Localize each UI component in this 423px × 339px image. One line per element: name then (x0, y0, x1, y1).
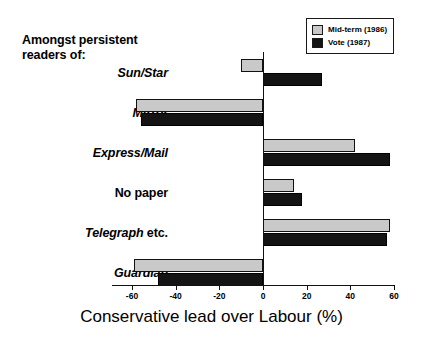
x-tick-label: 60 (389, 291, 398, 301)
bar-vote-mirror (141, 113, 263, 126)
category-label-sun-star: Sun/Star (117, 66, 168, 80)
category-label-telegraph-text: Telegraph (85, 226, 143, 240)
legend-swatch-vote (312, 38, 323, 48)
category-row-sun-star: Sun/Star (0, 55, 423, 93)
x-axis-line (112, 285, 395, 286)
x-tick-mark (176, 285, 177, 290)
x-axis-title: Conservative lead over Labour (%) (0, 306, 423, 327)
x-tick-label: 20 (302, 291, 311, 301)
x-tick-mark (350, 285, 351, 290)
x-tick-label: -20 (213, 291, 225, 301)
bar-vote-express-mail (263, 153, 390, 166)
bar-vote-telegraph (263, 233, 387, 246)
legend-item-midterm: Mid-term (1986) (312, 23, 387, 36)
bar-midterm-no-paper (263, 179, 294, 192)
x-tick-label: 0 (261, 291, 266, 301)
x-tick-mark (132, 285, 133, 290)
chart-legend: Mid-term (1986) Vote (1987) (306, 18, 394, 54)
zero-axis-line (263, 52, 264, 286)
bar-midterm-sun-star (241, 59, 263, 72)
bar-midterm-mirror (136, 99, 263, 112)
x-tick-label: 40 (346, 291, 355, 301)
category-label-no-paper: No paper (115, 186, 168, 200)
category-row-telegraph: Telegraph etc. (0, 215, 423, 253)
x-tick-mark (307, 285, 308, 290)
bar-midterm-telegraph (263, 219, 390, 232)
bar-vote-no-paper (263, 193, 302, 206)
legend-swatch-midterm (312, 25, 323, 35)
category-label-telegraph-suffix: etc. (143, 226, 168, 240)
bar-vote-sun-star (263, 73, 322, 86)
category-label-express-mail: Express/Mail (93, 146, 168, 160)
x-tick-mark (263, 285, 264, 290)
x-tick-label: -40 (170, 291, 182, 301)
bar-midterm-guardian (134, 259, 263, 272)
category-row-mirror: Mirror (0, 95, 423, 133)
legend-label-vote: Vote (1987) (328, 38, 370, 48)
plot-area: Sun/Star Mirror Express/Mail No paper Te… (0, 55, 423, 285)
category-row-guardian: Guardian (0, 255, 423, 293)
category-row-express-mail: Express/Mail (0, 135, 423, 173)
category-label-telegraph: Telegraph etc. (85, 226, 168, 240)
bar-chart: Mid-term (1986) Vote (1987) Amongst pers… (0, 0, 423, 339)
legend-item-vote: Vote (1987) (312, 36, 387, 49)
x-tick-mark (219, 285, 220, 290)
bar-midterm-express-mail (263, 139, 355, 152)
x-tick-mark (394, 285, 395, 290)
x-tick-label: -60 (126, 291, 138, 301)
legend-label-midterm: Mid-term (1986) (328, 25, 387, 35)
category-row-no-paper: No paper (0, 175, 423, 213)
